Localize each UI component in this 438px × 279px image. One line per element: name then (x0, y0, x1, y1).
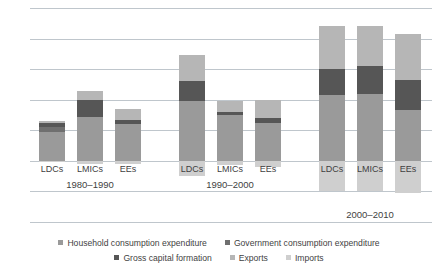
legend-item[interactable]: Gross capital formation (114, 252, 211, 265)
legend-label: Household consumption expenditure (67, 238, 207, 248)
bar-segment (255, 100, 281, 118)
bar-2000–2010-LMICs (357, 8, 383, 222)
category-label-EEs: EEs (120, 164, 137, 174)
bar-segment (217, 101, 243, 112)
legend-label: Gross capital formation (123, 253, 211, 263)
bar-segment (179, 55, 205, 81)
period-label-2000–2010: 2000–2010 (346, 209, 394, 220)
stacked-bar-chart: 1086420–2–4 LDCsLMICsEEsLDCsLMICsEEsLDCs… (0, 0, 438, 279)
legend-swatch-icon (225, 240, 230, 245)
bar-segment (115, 109, 141, 120)
legend-swatch-icon (114, 255, 119, 260)
category-label-LMICs: LMICs (357, 164, 383, 174)
bar-segment (255, 118, 281, 123)
legend-swatch-icon (230, 255, 235, 260)
bar-segment (179, 101, 205, 161)
bar-segment (255, 123, 281, 161)
gridline--4 (30, 222, 432, 223)
bar-segment (395, 80, 421, 111)
category-label-LDCs: LDCs (41, 164, 64, 174)
bar-1990–2000-EEs (255, 8, 281, 222)
legend-item[interactable]: Household consumption expenditure (58, 237, 207, 250)
legend-swatch-icon (58, 240, 63, 245)
bar-segment (39, 127, 65, 132)
category-label-LDCs: LDCs (321, 164, 344, 174)
chart-legend: Household consumption expenditureGovernm… (0, 236, 438, 265)
bar-segment (39, 121, 65, 123)
legend-item[interactable]: Exports (230, 252, 268, 265)
legend-item[interactable]: Government consumption expenditure (225, 237, 380, 250)
bar-segment (319, 95, 345, 161)
bar-1990–2000-LDCs (179, 8, 205, 222)
period-label-1990–2000: 1990–2000 (206, 179, 254, 190)
legend-label: Government consumption expenditure (234, 238, 380, 248)
bars-layer (30, 8, 432, 222)
legend-row-primary: Household consumption expenditureGovernm… (0, 236, 438, 250)
category-label-LMICs: LMICs (217, 164, 243, 174)
bar-1990–2000-LMICs (217, 8, 243, 222)
bar-segment (39, 123, 65, 128)
category-label-EEs: EEs (400, 164, 417, 174)
category-label-LDCs: LDCs (181, 164, 204, 174)
bar-2000–2010-LDCs (319, 8, 345, 222)
plot-area: 1086420–2–4 (30, 8, 432, 222)
category-label-EEs: EEs (260, 164, 277, 174)
bar-segment (115, 120, 141, 125)
bar-segment (179, 81, 205, 101)
bar-segment (217, 112, 243, 115)
legend-swatch-icon (286, 255, 291, 260)
bar-segment (357, 94, 383, 161)
bar-segment (77, 100, 103, 117)
bar-1980–1990-LDCs (39, 8, 65, 222)
legend-label: Exports (239, 253, 268, 263)
bar-segment (357, 26, 383, 66)
legend-row-secondary: Gross capital formationExportsImports (0, 250, 438, 264)
period-label-1980–1990: 1980–1990 (66, 179, 114, 190)
bar-1980–1990-LMICs (77, 8, 103, 222)
bar-2000–2010-EEs (395, 8, 421, 222)
bar-segment (395, 110, 421, 160)
bar-segment (77, 91, 103, 100)
category-label-LMICs: LMICs (77, 164, 103, 174)
legend-label: Imports (295, 253, 324, 263)
bar-segment (39, 132, 65, 161)
bar-segment (217, 115, 243, 161)
bar-segment (319, 69, 345, 95)
bar-segment (77, 117, 103, 161)
bar-1980–1990-EEs (115, 8, 141, 222)
bar-segment (39, 161, 65, 163)
bar-segment (395, 34, 421, 80)
bar-segment (319, 26, 345, 69)
bar-segment (357, 66, 383, 94)
bar-segment (115, 124, 141, 161)
legend-item[interactable]: Imports (286, 252, 324, 265)
